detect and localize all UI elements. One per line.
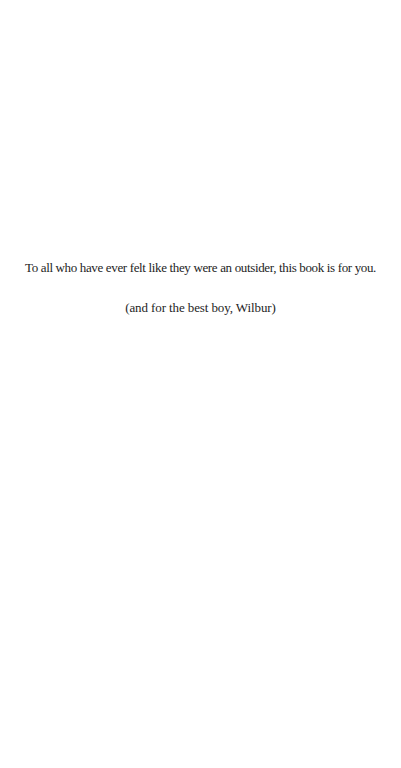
- dedication-secondary-text: (and for the best boy, Wilbur): [0, 300, 401, 316]
- dedication-main-text: To all who have ever felt like they were…: [0, 260, 401, 276]
- dedication-page: To all who have ever felt like they were…: [0, 0, 401, 768]
